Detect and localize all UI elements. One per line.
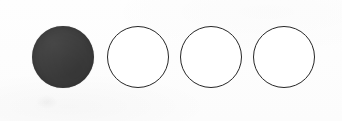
scan-shadow-artifact <box>36 95 58 109</box>
circle-rating-canvas <box>0 0 342 121</box>
rating-circle-1[interactable] <box>32 26 94 88</box>
rating-circle-4[interactable] <box>253 26 315 88</box>
rating-circle-3[interactable] <box>180 26 242 88</box>
rating-circle-2[interactable] <box>107 26 169 88</box>
